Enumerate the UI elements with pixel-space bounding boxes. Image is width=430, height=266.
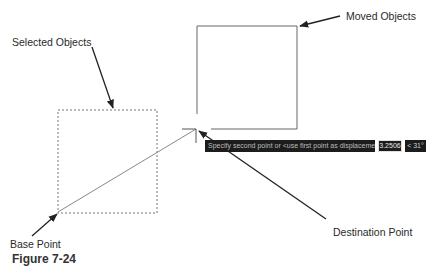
destination-point-label: Destination Point (333, 226, 412, 238)
angle-input[interactable]: < 31° (405, 140, 426, 152)
displacement-line (58, 129, 196, 212)
figure-caption: Figure 7-24 (12, 252, 76, 266)
moved-objects-label: Moved Objects (346, 10, 416, 22)
moved-objects-square[interactable] (197, 26, 297, 129)
base-point-arrow-icon (32, 214, 57, 236)
command-prompt-text: Specify second point or <use first point… (205, 140, 375, 152)
selected-objects-label: Selected Objects (12, 36, 91, 48)
distance-input[interactable]: 3.2506 (378, 140, 402, 152)
selected-objects-arrow-icon (92, 47, 113, 108)
base-point-label: Base Point (10, 238, 61, 250)
dynamic-input-tooltip: Specify second point or <use first point… (205, 140, 426, 152)
moved-objects-arrow-icon (300, 16, 340, 26)
